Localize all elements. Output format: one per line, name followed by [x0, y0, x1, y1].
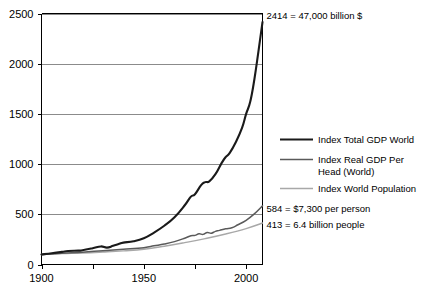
chart-legend: Index Total GDP WorldIndex Real GDP PerH… — [280, 134, 416, 194]
legend-label-2: Index World Population — [318, 183, 416, 194]
chart-container: 05001000150020002500 190019502000 2414 =… — [0, 0, 435, 294]
x-axis-tick-labels: 190019502000 — [29, 272, 258, 284]
gdp-population-line-chart: 05001000150020002500 190019502000 2414 =… — [0, 0, 435, 294]
data-series — [42, 22, 263, 254]
legend-label-0: Index Total GDP World — [318, 134, 414, 145]
series-line-0 — [42, 22, 263, 254]
y-axis-label-0: 0 — [27, 259, 33, 271]
y-axis-label-2000: 2000 — [9, 58, 33, 70]
series-line-1 — [42, 206, 263, 255]
axis-tick-marks — [38, 15, 247, 269]
x-axis-label-1900: 1900 — [29, 272, 53, 284]
y-axis-label-1500: 1500 — [9, 108, 33, 120]
x-axis-label-2000: 2000 — [234, 272, 258, 284]
annotation-labels: 2414 = 47,000 billion $584 = $7,300 per … — [267, 10, 371, 231]
y-axis-label-1000: 1000 — [9, 158, 33, 170]
y-axis-label-500: 500 — [15, 208, 33, 220]
grid-lines — [42, 15, 263, 215]
y-axis-tick-labels: 05001000150020002500 — [9, 8, 33, 271]
legend-label-1: Index Real GDP Per — [318, 154, 404, 165]
legend-label-1-cont: Head (World) — [318, 166, 374, 177]
annotation-population: 413 = 6.4 billion people — [267, 219, 365, 230]
plot-axes — [42, 14, 263, 265]
annotation-gdp-total: 2414 = 47,000 billion $ — [267, 10, 364, 21]
annotation-gdp-per-head: 584 = $7,300 per person — [267, 203, 371, 214]
y-axis-label-2500: 2500 — [9, 8, 33, 20]
x-axis-label-1950: 1950 — [132, 272, 156, 284]
